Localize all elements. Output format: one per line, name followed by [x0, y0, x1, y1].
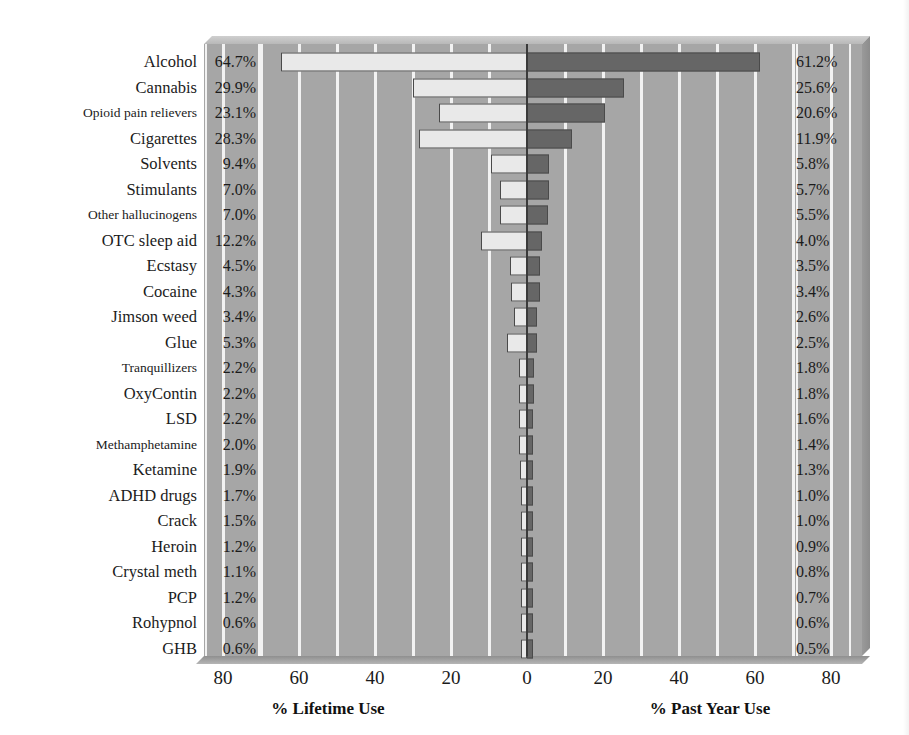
bar-lifetime-use: [507, 333, 527, 352]
category-label: Rohypnol: [132, 615, 197, 632]
panel-top-bevel: [204, 36, 870, 44]
category-label: OTC sleep aid: [102, 232, 197, 249]
chart-row: [204, 304, 862, 330]
chart-row: [204, 534, 862, 560]
category-label: Cocaine: [143, 283, 197, 300]
chart-row: [204, 483, 862, 509]
category-label: Ecstasy: [147, 258, 197, 275]
past-year-value-label: 2.5%: [796, 335, 854, 351]
lifetime-value-label: 7.0%: [210, 182, 256, 198]
past-year-value-label: 1.0%: [796, 513, 854, 529]
category-label: Jimson weed: [111, 309, 197, 326]
lifetime-value-label: 64.7%: [210, 54, 256, 70]
category-label: OxyContin: [124, 385, 197, 402]
past-year-value-label: 1.4%: [796, 437, 854, 453]
lifetime-value-label: 0.6%: [210, 615, 256, 631]
category-label: Alcohol: [144, 54, 197, 71]
past-year-value-label: 5.5%: [796, 207, 854, 223]
x-axis-tick-label: 20: [426, 668, 476, 687]
bar-past-year-use: [527, 359, 534, 378]
bar-lifetime-use: [491, 155, 527, 174]
x-axis-tick-label: 20: [578, 668, 628, 687]
chart-row: [204, 202, 862, 228]
bar-lifetime-use: [413, 78, 527, 97]
past-year-value-label: 1.3%: [796, 462, 854, 478]
lifetime-value-label: 0.6%: [210, 641, 256, 657]
lifetime-value-label: 1.2%: [210, 590, 256, 606]
chart-row: [204, 100, 862, 126]
bar-lifetime-use: [439, 104, 527, 123]
lifetime-value-label: 4.5%: [210, 258, 256, 274]
past-year-value-label: 1.8%: [796, 360, 854, 376]
bar-past-year-use: [527, 206, 548, 225]
category-label: Cannabis: [136, 79, 197, 96]
plot-area: [204, 44, 862, 656]
chart-row: [204, 49, 862, 75]
past-year-value-label: 61.2%: [796, 54, 854, 70]
x-axis-tick-label: 0: [502, 668, 552, 687]
lifetime-value-label: 2.2%: [210, 411, 256, 427]
bar-past-year-use: [527, 78, 624, 97]
lifetime-value-label: 2.2%: [210, 386, 256, 402]
chart-row: [204, 228, 862, 254]
bar-past-year-use: [527, 282, 540, 301]
lifetime-value-label: 4.3%: [210, 284, 256, 300]
chart-row: [204, 432, 862, 458]
bar-lifetime-use: [481, 231, 527, 250]
past-year-value-label: 1.0%: [796, 488, 854, 504]
past-year-value-label: 0.7%: [796, 590, 854, 606]
past-year-value-label: 5.7%: [796, 182, 854, 198]
lifetime-value-label: 2.0%: [210, 437, 256, 453]
chart-row: [204, 279, 862, 305]
bar-past-year-use: [527, 53, 760, 72]
past-year-value-label: 1.6%: [796, 411, 854, 427]
lifetime-value-label: 1.2%: [210, 539, 256, 555]
chart-row: [204, 75, 862, 101]
past-year-value-label: 11.9%: [796, 131, 854, 147]
chart-row: [204, 355, 862, 381]
lifetime-value-label: 9.4%: [210, 156, 256, 172]
bar-lifetime-use: [511, 282, 527, 301]
past-year-value-label: 1.8%: [796, 386, 854, 402]
bar-lifetime-use: [500, 180, 527, 199]
bar-past-year-use: [527, 180, 549, 199]
chart-row: [204, 508, 862, 534]
category-label: ADHD drugs: [109, 487, 197, 504]
chart-row: [204, 406, 862, 432]
past-year-value-label: 25.6%: [796, 80, 854, 96]
chart-row: [204, 330, 862, 356]
category-label: Other hallucinogens: [88, 208, 197, 222]
category-label: GHB: [162, 640, 197, 657]
past-year-value-label: 4.0%: [796, 233, 854, 249]
chart-row: [204, 457, 862, 483]
chart-row: [204, 381, 862, 407]
chart-row: [204, 177, 862, 203]
lifetime-value-label: 28.3%: [210, 131, 256, 147]
lifetime-value-label: 1.1%: [210, 564, 256, 580]
zero-axis-line: [526, 44, 528, 656]
bar-past-year-use: [527, 129, 572, 148]
category-label: Ketamine: [133, 462, 197, 479]
lifetime-value-label: 1.9%: [210, 462, 256, 478]
past-year-value-label: 0.6%: [796, 615, 854, 631]
past-year-value-label: 3.4%: [796, 284, 854, 300]
chart-row: [204, 126, 862, 152]
lifetime-value-label: 7.0%: [210, 207, 256, 223]
x-axis-tick-label: 40: [654, 668, 704, 687]
chart-row: [204, 151, 862, 177]
lifetime-value-label: 3.4%: [210, 309, 256, 325]
category-label: Opioid pain relievers: [83, 106, 197, 120]
bar-lifetime-use: [510, 257, 527, 276]
category-label: Crack: [158, 513, 197, 530]
bar-past-year-use: [527, 155, 549, 174]
lifetime-value-label: 1.7%: [210, 488, 256, 504]
chart-row: [204, 610, 862, 636]
past-year-value-label: 0.9%: [796, 539, 854, 555]
category-label: Tranquillizers: [122, 361, 197, 375]
past-year-value-label: 0.5%: [796, 641, 854, 657]
category-label: Methamphetamine: [96, 438, 197, 452]
x-axis-title-left: % Lifetime Use: [198, 700, 458, 717]
category-label: LSD: [166, 411, 197, 428]
lifetime-value-label: 23.1%: [210, 105, 256, 121]
x-axis-tick-label: 80: [198, 668, 248, 687]
